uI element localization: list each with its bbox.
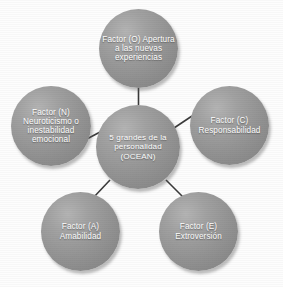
node-factor-agreeableness[interactable]: Factor (A) Amabilidad — [41, 192, 120, 271]
ocean-personality-diagram: Factor (O) Apertura a las nuevas experie… — [0, 0, 283, 287]
node-factor-openness-label: Factor (O) Apertura a las nuevas experie… — [99, 35, 178, 63]
node-center-ocean-label: 5 grandes de la personalidad (OCEAN) — [96, 133, 180, 160]
node-center-ocean[interactable]: 5 grandes de la personalidad (OCEAN) — [96, 105, 180, 189]
node-factor-conscientiousness-label: Factor (C) Responsabilidad — [190, 116, 269, 134]
node-factor-neuroticism[interactable]: Factor (N) Neuroticismo o inestabilidad … — [11, 86, 91, 166]
node-factor-extraversion[interactable]: Factor (E) Extroversión — [159, 192, 238, 271]
node-factor-extraversion-label: Factor (E) Extroversión — [159, 222, 238, 240]
node-factor-openness[interactable]: Factor (O) Apertura a las nuevas experie… — [99, 9, 178, 88]
node-factor-neuroticism-label: Factor (N) Neuroticismo o inestabilidad … — [11, 108, 91, 145]
node-factor-conscientiousness[interactable]: Factor (C) Responsabilidad — [190, 86, 269, 165]
node-factor-agreeableness-label: Factor (A) Amabilidad — [41, 222, 120, 240]
